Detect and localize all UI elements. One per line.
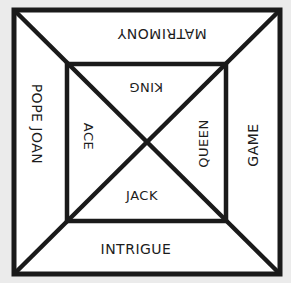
section-label-pope-joan: POPE JOAN (30, 78, 44, 170)
section-label-matrimony: MATRIMONY (112, 27, 212, 41)
section-label-queen: QUEEN (197, 114, 210, 174)
section-label-intrigue: INTRIGUE (92, 242, 180, 256)
section-label-king: KING (121, 81, 171, 94)
section-label-ace: ACE (82, 117, 95, 157)
section-label-game: GAME (246, 119, 260, 171)
section-label-jack: JACK (117, 189, 167, 202)
